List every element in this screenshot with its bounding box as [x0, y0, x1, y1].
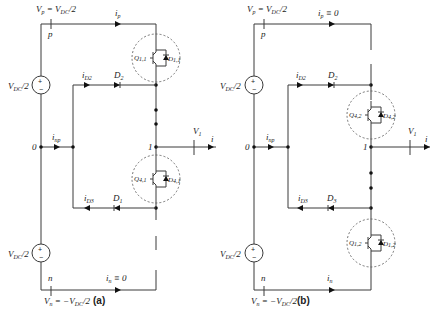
- svg-text:D2: D2: [113, 70, 124, 81]
- diode-d3-b-icon: [328, 205, 334, 211]
- panel-a: + − + −: [8, 4, 216, 307]
- svg-text:+: +: [251, 78, 255, 85]
- svg-text:Vn = −VDC/2: Vn = −VDC/2: [44, 296, 91, 307]
- svg-text:i: i: [425, 134, 428, 144]
- svg-text:1: 1: [148, 142, 153, 152]
- svg-text:0: 0: [32, 142, 37, 152]
- svg-text:VDC/2: VDC/2: [220, 81, 241, 92]
- svg-text:D2: D2: [327, 70, 338, 81]
- svg-text:iD2: iD2: [296, 70, 306, 81]
- svg-text:D4,2: D4,2: [382, 112, 396, 120]
- svg-text:VDC/2: VDC/2: [220, 249, 241, 260]
- svg-text:Q1,2: Q1,2: [349, 239, 362, 247]
- svg-text:p: p: [260, 29, 266, 39]
- svg-text:ip ≡ 0: ip ≡ 0: [318, 8, 339, 19]
- svg-text:D3: D3: [326, 193, 337, 204]
- svg-text:−: −: [39, 254, 43, 261]
- svg-text:i: i: [211, 134, 214, 144]
- svg-text:inp: inp: [266, 132, 275, 143]
- svg-text:D1: D1: [112, 193, 123, 204]
- diode-d1-icon: [114, 205, 120, 211]
- svg-text:ip: ip: [115, 8, 121, 19]
- svg-text:n: n: [261, 273, 266, 283]
- diode-d2-b-icon: [328, 82, 334, 88]
- svg-text:Q4,2: Q4,2: [349, 111, 362, 119]
- svg-text:Q1,1: Q1,1: [134, 54, 147, 62]
- svg-text:n: n: [48, 273, 53, 283]
- output-arrow-icon: [208, 144, 214, 150]
- svg-text:V1: V1: [193, 126, 202, 137]
- svg-text:p: p: [47, 29, 53, 39]
- svg-text:1: 1: [363, 142, 368, 152]
- svg-text:iD3: iD3: [84, 193, 94, 204]
- svg-text:D4,1: D4,1: [167, 176, 181, 184]
- svg-text:Q4,1: Q4,1: [134, 175, 147, 183]
- svg-text:Vn = −VDC/2: Vn = −VDC/2: [251, 296, 298, 307]
- svg-text:iD2: iD2: [82, 70, 92, 81]
- svg-text:V1: V1: [408, 126, 417, 137]
- svg-text:+: +: [38, 246, 42, 253]
- in-arrow-icon: [115, 287, 121, 293]
- svg-text:−: −: [252, 254, 256, 261]
- svg-text:Vp = VDC/2: Vp = VDC/2: [36, 4, 76, 15]
- svg-text:VDC/2: VDC/2: [8, 81, 29, 92]
- caption-a: (a): [93, 295, 105, 306]
- svg-text:−: −: [39, 86, 43, 93]
- circuit-figure: + − + −: [0, 0, 442, 314]
- svg-text:VDC/2: VDC/2: [8, 249, 29, 260]
- diode-d2-icon: [114, 82, 120, 88]
- svg-text:Vp = VDC/2: Vp = VDC/2: [247, 4, 287, 15]
- caption-b: (b): [297, 295, 310, 306]
- svg-text:+: +: [251, 246, 255, 253]
- svg-text:0: 0: [245, 142, 250, 152]
- svg-text:in ≡ 0: in ≡ 0: [106, 273, 127, 284]
- svg-text:D1,1: D1,1: [167, 55, 181, 63]
- svg-text:in: in: [327, 273, 333, 284]
- ip-arrow-icon: [115, 21, 121, 27]
- svg-text:+: +: [38, 78, 42, 85]
- svg-text:iD3: iD3: [298, 193, 308, 204]
- svg-text:−: −: [252, 86, 256, 93]
- panel-b: + − + − Vp = VDC/2: [220, 4, 430, 307]
- svg-text:D1,2: D1,2: [382, 240, 396, 248]
- svg-text:inp: inp: [52, 132, 61, 143]
